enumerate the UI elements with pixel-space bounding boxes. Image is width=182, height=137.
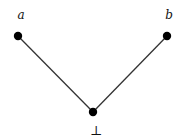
node-b	[163, 32, 171, 40]
node-a	[14, 32, 22, 40]
edge-a-bottom	[18, 36, 93, 112]
label-bottom: ⊥	[90, 123, 102, 137]
label-b: b	[165, 8, 173, 22]
label-a: a	[17, 8, 24, 22]
edge-b-bottom	[93, 36, 167, 112]
node-bottom	[89, 108, 97, 116]
hasse-diagram: a b ⊥	[0, 0, 182, 137]
